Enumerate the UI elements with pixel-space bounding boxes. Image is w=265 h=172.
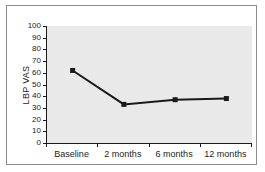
y-tick-mark (43, 61, 46, 62)
y-tick-mark (43, 108, 46, 109)
x-tick-label: 6 months (148, 149, 200, 159)
x-tick-mark (97, 144, 98, 147)
y-tick-label: 50 (17, 81, 41, 89)
y-tick-label: 30 (17, 104, 41, 112)
x-tick-mark (46, 144, 47, 147)
y-tick-label: 80 (17, 45, 41, 53)
y-tick-label: 20 (17, 116, 41, 124)
y-tick-label: 40 (17, 92, 41, 100)
y-tick-mark (43, 96, 46, 97)
y-tick-label: 10 (17, 127, 41, 135)
y-tick-label: 60 (17, 69, 41, 77)
data-point-marker (70, 68, 75, 73)
y-tick-label: 70 (17, 57, 41, 65)
x-tick-label: Baseline (46, 149, 98, 159)
data-point-marker (121, 102, 126, 107)
y-tick-mark (43, 49, 46, 50)
y-tick-mark (43, 73, 46, 74)
y-tick-label: 0 (17, 139, 41, 147)
x-tick-mark (149, 144, 150, 147)
y-tick-label: 100 (17, 22, 41, 30)
chart-image: LBP VAS 0102030405060708090100 Baseline2… (0, 0, 265, 172)
y-tick-label: 90 (17, 34, 41, 42)
x-tick-mark (251, 144, 252, 147)
line-series (47, 26, 252, 143)
chart-frame: LBP VAS 0102030405060708090100 Baseline2… (6, 5, 257, 165)
y-tick-mark (43, 85, 46, 86)
y-tick-mark (43, 120, 46, 121)
y-tick-mark (43, 131, 46, 132)
y-tick-mark (43, 38, 46, 39)
x-tick-mark (200, 144, 201, 147)
plot-area: LBP VAS (46, 26, 252, 144)
x-tick-label: 2 months (97, 149, 149, 159)
data-point-marker (173, 97, 178, 102)
y-tick-mark (43, 26, 46, 27)
x-tick-label: 12 months (199, 149, 251, 159)
data-point-marker (224, 96, 229, 101)
series-line (73, 70, 227, 104)
